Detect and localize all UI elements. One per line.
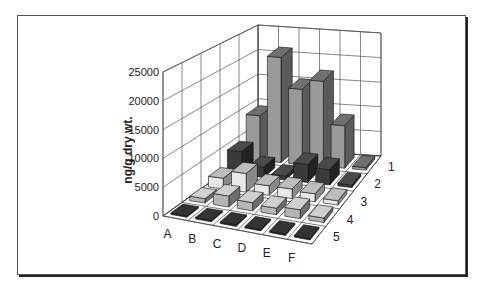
y-tick-label: 5000 xyxy=(135,181,159,193)
row-label: 1 xyxy=(388,160,395,174)
y-axis-label: ng/g dry wt. xyxy=(121,116,135,183)
category-label: F xyxy=(288,251,295,265)
category-label: D xyxy=(238,241,247,255)
row-label: 2 xyxy=(374,177,381,191)
category-label: B xyxy=(188,232,196,246)
category-label: A xyxy=(163,227,171,241)
y-tick-label: 0 xyxy=(153,210,159,222)
bar3d-chart: 0500010000150002000025000ABCDEF12345 ng/… xyxy=(0,0,486,282)
y-tick-label: 20000 xyxy=(128,95,159,107)
row-label: 3 xyxy=(361,195,368,209)
category-label: C xyxy=(213,237,222,251)
bar xyxy=(310,70,334,166)
category-label: E xyxy=(263,246,271,260)
row-label: 4 xyxy=(347,213,354,227)
y-tick-label: 25000 xyxy=(128,66,159,78)
row-label: 5 xyxy=(333,230,340,244)
bar xyxy=(289,79,313,165)
